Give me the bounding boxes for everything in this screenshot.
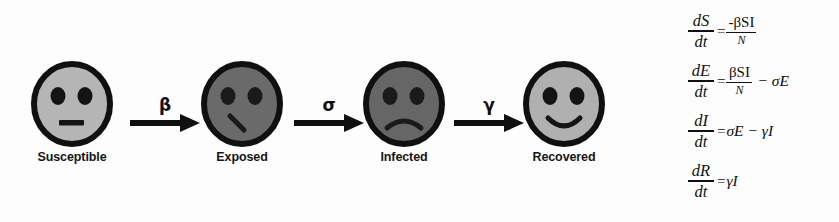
unwell-face-icon [198,60,286,148]
equals-sign: = [717,173,725,190]
equals-sign: = [717,23,725,40]
derivative-dR-dt: dR dt [688,162,714,201]
expression-beta-SI-over-N: -βSI N [726,15,756,47]
arrow-label-gamma: γ [452,97,526,114]
compartment-infected: Infected [360,60,448,164]
denominator: N [733,84,745,97]
face-recovered [520,60,608,148]
neutral-face-icon [28,60,116,148]
numerator: -βSI [726,15,756,31]
expression-gamma-I: γI [726,172,737,190]
numerator: βSI [727,65,752,81]
denominator: dt [693,33,710,50]
face-susceptible [28,60,116,148]
face-infected [360,60,448,148]
compartment-recovered: Recovered [520,60,608,164]
numerator: dI [692,112,710,129]
expression-minus-sigma-E: − σE [757,72,788,90]
compartment-susceptible: Susceptible [28,60,116,164]
derivative-dE-dt: dE dt [688,62,714,101]
face-exposed [198,60,286,148]
happy-face-icon [520,60,608,148]
equation-dR-dt: dR dt = γI [688,156,838,206]
equation-dI-dt: dI dt = σE − γI [688,106,838,156]
numerator: dS [691,12,712,29]
compartment-label: Susceptible [28,150,116,164]
sad-face-icon [360,60,448,148]
derivative-dI-dt: dI dt [688,112,714,151]
arrow-exposed-to-infected: σ [292,101,366,135]
denominator: dt [693,183,710,200]
arrow-label-beta: β [128,97,202,114]
arrow-label-sigma: σ [292,97,366,114]
expression-sigma-E-minus-gamma-I: σE − γI [726,122,773,140]
equals-sign: = [717,73,725,90]
compartment-label: Exposed [198,150,286,164]
expression-beta-SI-over-N: βSI N [726,65,752,97]
denominator: N [735,34,747,47]
equation-dS-dt: dS dt = -βSI N [688,6,838,56]
numerator: dE [690,62,712,79]
equation-dE-dt: dE dt = βSI N − σE [688,56,838,106]
arrow-susceptible-to-exposed: β [128,101,202,135]
equals-sign: = [717,123,725,140]
seir-model-figure: Susceptible β Exposed σ [0,0,839,222]
denominator: dt [693,83,710,100]
compartment-exposed: Exposed [198,60,286,164]
derivative-dS-dt: dS dt [688,12,714,51]
compartment-label: Infected [360,150,448,164]
numerator: dR [690,162,712,179]
compartment-label: Recovered [520,150,608,164]
differential-equations-block: dS dt = -βSI N dE dt = βSI N [688,6,838,206]
denominator: dt [693,133,710,150]
arrow-infected-to-recovered: γ [452,101,526,135]
